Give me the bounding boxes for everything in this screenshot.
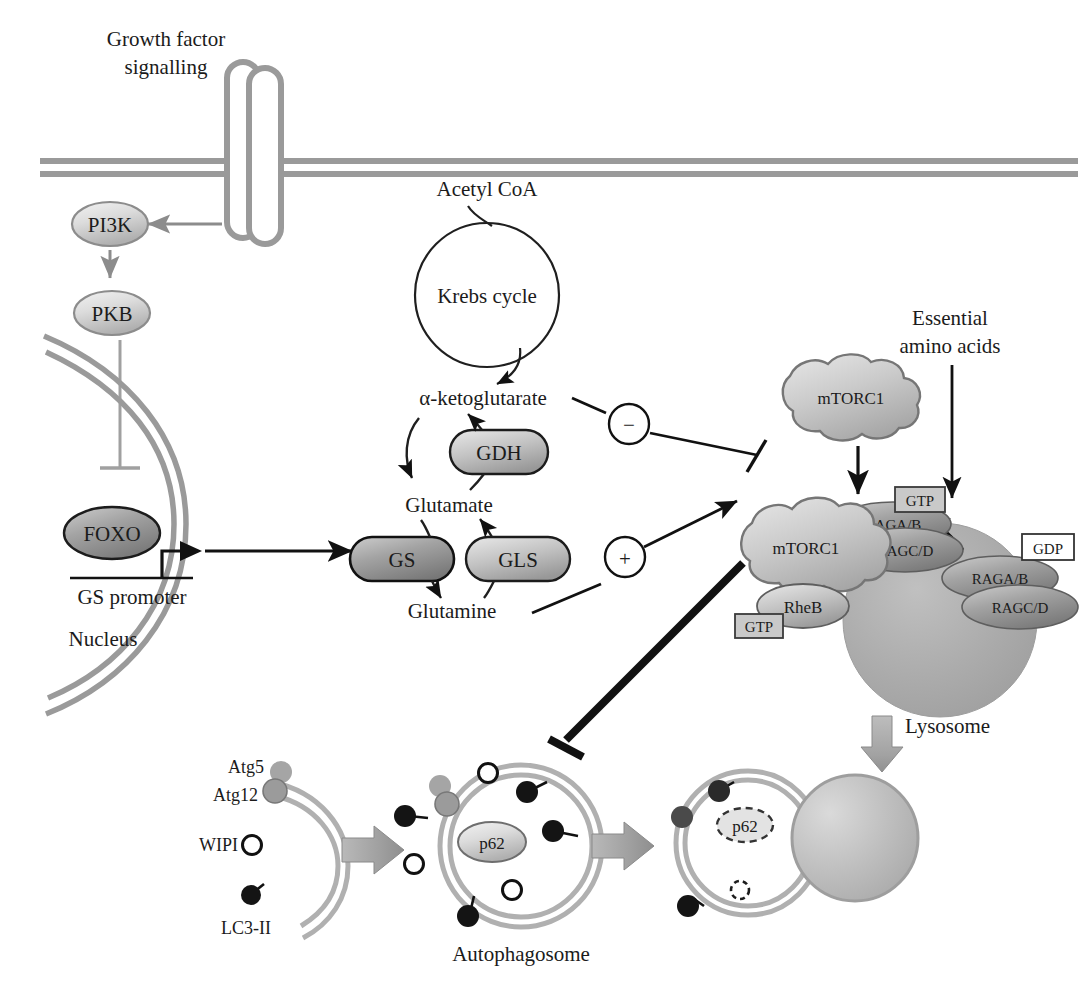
p62-autophagosome-label: p62 (479, 834, 505, 853)
growth-factor-receptor[interactable] (227, 62, 281, 244)
acetyl-coa-label: Acetyl CoA (437, 177, 539, 201)
lysosome-label: Lysosome (905, 714, 990, 738)
wipi-dot-auto-1 (479, 764, 498, 783)
atg5-label: Atg5 (228, 757, 264, 777)
lc3ii-dot-auto-4 (457, 905, 479, 927)
autophagosome-label: Autophagosome (452, 942, 590, 966)
glutamate-label: Glutamate (405, 493, 492, 517)
gtp-rag-label: GTP (906, 493, 934, 509)
gs-promoter-label: GS promoter (77, 585, 186, 609)
lc3ii-dot-auto-3 (394, 805, 416, 827)
wipi-dot-auto-2 (405, 855, 424, 874)
akg-to-glutamate-curve (407, 418, 419, 478)
node-pi3k-label: PI3K (88, 213, 132, 237)
negative-modifier-label: − (623, 413, 635, 437)
node-gs-label: GS (389, 548, 416, 572)
phagophore-to-autophagosome-arrow (342, 826, 404, 874)
lc3ii-degrading (731, 881, 749, 899)
growth-factor-label: Growth factor (107, 27, 225, 51)
atg12-dot (263, 779, 287, 803)
node-pkb-label: PKB (92, 302, 133, 326)
krebs-cycle-label: Krebs cycle (437, 284, 537, 308)
glutamine-label: Glutamine (408, 599, 497, 623)
autophagosome-group[interactable]: p62 Autophagosome (394, 764, 602, 967)
nucleus-label: Nucleus (69, 627, 138, 651)
signalling-label: signalling (125, 55, 208, 79)
node-gls-label: GLS (498, 548, 538, 572)
lc3ii-dot-autoly-2 (671, 806, 693, 828)
gs-promoter-group: GS promoter Nucleus (69, 541, 202, 651)
node-mtorc1-free-label: mTORC1 (818, 389, 885, 408)
wipi-dot (243, 836, 262, 855)
akg-inhibits-mtorc1: − (572, 398, 766, 472)
node-gdh[interactable]: GDH (450, 414, 548, 490)
krebs-cycle-group: Krebs cycle (415, 206, 559, 384)
essential-amino-acids-line2: amino acids (900, 334, 1001, 358)
node-gs[interactable]: GS (350, 520, 454, 598)
wipi-label: WIPI (199, 835, 238, 855)
lc3ii-dot-auto-1 (516, 781, 538, 803)
plasma-membrane (40, 161, 1078, 174)
pathway-diagram-canvas: Growth factor signalling PI3K PKB FOXO G… (0, 0, 1092, 996)
node-mtorc1-lysosome-label: mTORC1 (773, 539, 840, 558)
lc3ii-dot-autoly-1 (708, 780, 730, 802)
alpha-ketoglutarate-label: α-ketoglutarate (419, 386, 547, 410)
p62-autolysosome-label: p62 (732, 817, 758, 836)
fusing-lysosome (792, 775, 918, 901)
node-foxo[interactable]: FOXO (64, 507, 160, 559)
node-gls[interactable]: GLS (466, 519, 570, 598)
node-ragc-d-inactive-label: RAGC/D (992, 600, 1049, 616)
node-pkb[interactable]: PKB (74, 291, 150, 335)
lysosome-fusion-block-arrow (861, 716, 903, 772)
node-mtorc1-lysosome[interactable]: mTORC1 (741, 498, 890, 594)
phagophore-group[interactable]: Atg5 Atg12 WIPI LC3-II (199, 757, 348, 938)
lc3ii-dot-auto-2 (542, 820, 564, 842)
inhibition-t-bar (747, 440, 766, 472)
node-rheb[interactable]: RheB GTP (735, 584, 849, 638)
node-foxo-label: FOXO (83, 522, 140, 546)
atg12-dot-auto (435, 792, 459, 816)
gdp-label: GDP (1033, 541, 1063, 557)
gtp-rheb-label: GTP (745, 619, 773, 635)
node-mtorc1-free[interactable]: mTORC1 (783, 354, 920, 440)
lc3ii-label: LC3-II (221, 918, 271, 938)
wipi-dot-auto-3 (503, 881, 522, 900)
atg12-label: Atg12 (213, 785, 258, 805)
mtorc1-inhibits-autophagy (549, 563, 743, 757)
lc3ii-dot-autoly-3 (677, 895, 699, 917)
essential-amino-acids-line1: Essential (912, 306, 988, 330)
node-gdh-label: GDH (476, 441, 522, 465)
positive-modifier-label: + (619, 547, 631, 571)
node-pi3k[interactable]: PI3K (72, 202, 148, 246)
node-rheb-label: RheB (784, 598, 823, 617)
lc3ii-dot (241, 885, 261, 905)
autolysosome-group[interactable]: p62 (671, 771, 918, 917)
